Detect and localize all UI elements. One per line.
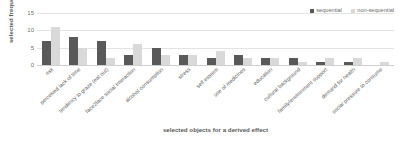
y-tick-label-0: 0 bbox=[31, 62, 34, 68]
x-axis-title: selected objects for a derived effect bbox=[37, 126, 394, 133]
bar-sequential[interactable] bbox=[261, 58, 270, 65]
bar-group bbox=[367, 13, 394, 65]
bar-group bbox=[119, 13, 146, 65]
bar-sequential[interactable] bbox=[152, 48, 161, 65]
y-axis-title: selected frequency bbox=[8, 0, 14, 51]
bar-chart: sequential non-sequential selected frequ… bbox=[0, 0, 402, 143]
bar-group bbox=[202, 13, 229, 65]
bar-non-sequential[interactable] bbox=[161, 55, 170, 65]
bar-series-container bbox=[37, 13, 394, 65]
bar-group bbox=[257, 13, 284, 65]
y-tick-label-5: 5 bbox=[31, 45, 34, 51]
bar-group bbox=[312, 13, 339, 65]
x-tick-cell: social pressure to consume bbox=[367, 66, 394, 122]
bar-sequential[interactable] bbox=[179, 55, 188, 65]
bar-group bbox=[147, 13, 174, 65]
bar-non-sequential[interactable] bbox=[51, 27, 60, 65]
bar-non-sequential[interactable] bbox=[270, 58, 279, 65]
x-tick-label: risk bbox=[44, 67, 54, 77]
bar-non-sequential[interactable] bbox=[133, 44, 142, 65]
x-tick-label: education bbox=[253, 67, 274, 87]
bar-sequential[interactable] bbox=[207, 58, 216, 65]
bar-sequential[interactable] bbox=[344, 62, 353, 65]
bar-sequential[interactable] bbox=[124, 55, 133, 65]
bar-non-sequential[interactable] bbox=[380, 62, 389, 65]
bar-group bbox=[64, 13, 91, 65]
plot-area: 051015 bbox=[37, 13, 394, 65]
bar-non-sequential[interactable] bbox=[243, 58, 252, 65]
bar-sequential[interactable] bbox=[289, 58, 298, 65]
bar-non-sequential[interactable] bbox=[106, 58, 115, 65]
bar-non-sequential[interactable] bbox=[78, 48, 87, 65]
bar-non-sequential[interactable] bbox=[188, 55, 197, 65]
bar-group bbox=[37, 13, 64, 65]
y-tick-label-15: 15 bbox=[27, 10, 34, 16]
bar-group bbox=[284, 13, 311, 65]
bar-sequential[interactable] bbox=[316, 62, 325, 65]
bar-sequential[interactable] bbox=[97, 41, 106, 65]
bar-non-sequential[interactable] bbox=[353, 58, 362, 65]
bar-sequential[interactable] bbox=[42, 41, 51, 65]
bar-sequential[interactable] bbox=[69, 37, 78, 65]
bar-non-sequential[interactable] bbox=[216, 51, 225, 65]
bar-group bbox=[229, 13, 256, 65]
x-tick-label: stress bbox=[177, 67, 191, 81]
bar-group bbox=[174, 13, 201, 65]
x-tick-cell: use of medicines bbox=[229, 66, 256, 122]
bar-group bbox=[92, 13, 119, 65]
x-axis-tick-labels: riskperceived lack of timetendency to gr… bbox=[37, 66, 394, 122]
bar-non-sequential[interactable] bbox=[325, 58, 334, 65]
x-tick-cell: stress bbox=[174, 66, 201, 122]
y-tick-label-10: 10 bbox=[27, 27, 34, 33]
bar-non-sequential[interactable] bbox=[298, 62, 307, 65]
bar-group bbox=[339, 13, 366, 65]
x-tick-cell: alcohol consumption bbox=[147, 66, 174, 122]
bar-sequential[interactable] bbox=[234, 55, 243, 65]
